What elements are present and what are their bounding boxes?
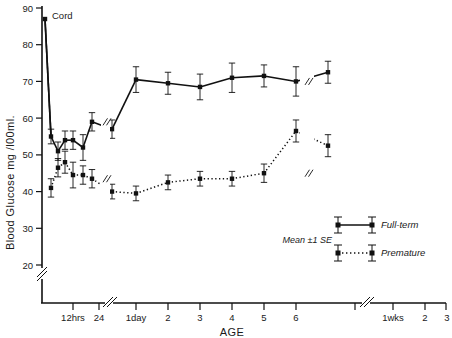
data-point-marker: [63, 160, 67, 164]
data-point-marker: [294, 129, 298, 133]
x-tick-label-3wks: 3: [444, 312, 449, 323]
data-point-marker: [81, 145, 85, 149]
data-point-marker: [326, 70, 330, 74]
series-line-segment: [51, 168, 58, 188]
x-tick-label-5day: 5: [261, 312, 266, 323]
data-point-marker: [110, 189, 114, 193]
data-point-marker: [230, 177, 234, 181]
data-point-marker: [166, 81, 170, 85]
x-tick-label-6day: 6: [293, 312, 298, 323]
series-line-segment: [264, 131, 296, 173]
data-point-marker: [230, 76, 234, 80]
series-premature: [48, 120, 331, 201]
blood-glucose-line-chart: Blood Glucose mg /l00ml. 90 80 70 60 50: [0, 0, 452, 338]
y-tick-group: [36, 8, 42, 265]
chart-figure: Blood Glucose mg /l00ml. 90 80 70 60 50: [0, 0, 452, 338]
y-tick-label-80: 80: [22, 39, 33, 50]
y-tick-label-90: 90: [22, 3, 33, 14]
data-point-marker: [110, 127, 114, 131]
y-axis-title: Blood Glucose mg /l00ml.: [4, 115, 16, 250]
series-line-segment: [200, 78, 232, 87]
x-tick-label-2day: 2: [165, 312, 170, 323]
x-tick-label-2wks: 2: [422, 312, 427, 323]
data-point-marker: [90, 120, 94, 124]
x-tick-label-1day: 1day: [126, 312, 147, 323]
legend-sample-full-term: [334, 217, 376, 233]
series-line-segment: [136, 80, 168, 84]
series-line-segment: [168, 179, 200, 183]
x-tick-group: [73, 303, 446, 310]
y-tick-labels: 90 80 70 60 50 40 30 20: [22, 3, 33, 271]
y-tick-label-50: 50: [22, 149, 33, 160]
x-tick-label-12hrs: 12hrs: [61, 312, 85, 323]
x-tick-label-24: 24: [94, 312, 105, 323]
data-point-marker: [90, 177, 94, 181]
series-line-segment: [232, 173, 264, 179]
legend-label-premature: Premature: [381, 247, 425, 258]
x-tick-label-4day: 4: [229, 312, 234, 323]
data-point-marker: [198, 177, 202, 181]
data-point-marker: [63, 138, 67, 142]
x-tick-labels: 12hrs 24 1day 2 3 4 5 6 1wks 2 3: [61, 312, 450, 323]
cord-annotation-label: Cord: [52, 10, 73, 21]
data-point-marker: [134, 77, 138, 81]
data-point-marker: [294, 79, 298, 83]
data-point-marker: [56, 149, 60, 153]
data-point-marker: [81, 173, 85, 177]
series-line-segment: [112, 192, 136, 194]
data-point-marker: [198, 85, 202, 89]
series-full-term: [43, 17, 331, 161]
data-point-marker: [56, 166, 60, 170]
data-point-marker: [49, 186, 53, 190]
data-series-layer: [43, 6, 331, 298]
legend-note: Mean ±1 SE: [283, 235, 333, 245]
axis-break-mask: [300, 6, 314, 298]
data-point-marker: [71, 138, 75, 142]
x-axis-title: AGE: [220, 326, 244, 338]
data-point-marker: [71, 173, 75, 177]
x-tick-label-3day: 3: [197, 312, 202, 323]
data-point-marker: [166, 180, 170, 184]
y-tick-label-40: 40: [22, 186, 33, 197]
x-tick-label-1wks: 1wks: [382, 312, 404, 323]
series-line-segment: [168, 83, 200, 87]
series-line-segment: [112, 80, 136, 130]
series-line-segment: [232, 76, 264, 78]
cord-drop-segment: [45, 19, 51, 136]
y-tick-label-30: 30: [22, 223, 33, 234]
x-axis: [41, 297, 446, 307]
legend-label-full-term: Full-term: [381, 219, 419, 230]
data-point-marker: [262, 171, 266, 175]
y-tick-label-70: 70: [22, 76, 33, 87]
series-line-segment: [136, 182, 168, 193]
data-point-marker: [262, 74, 266, 78]
data-point-marker: [134, 191, 138, 195]
legend-sample-premature: [334, 245, 376, 261]
y-tick-label-20: 20: [22, 260, 33, 271]
axis-break-mask: [101, 6, 110, 298]
series-line-segment: [264, 76, 296, 82]
y-tick-label-60: 60: [22, 113, 33, 124]
data-point-marker: [326, 143, 330, 147]
